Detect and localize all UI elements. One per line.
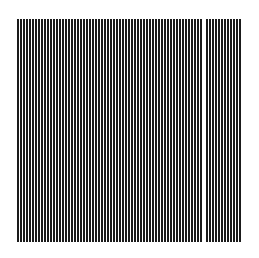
stripe	[113, 19, 115, 242]
stripe	[107, 19, 109, 242]
stripe	[20, 19, 22, 242]
stripe	[155, 19, 157, 242]
stripe	[68, 19, 70, 242]
stripe	[152, 19, 154, 242]
stripe	[35, 19, 37, 242]
stripe	[200, 19, 202, 242]
stripe	[239, 19, 241, 242]
stripe	[167, 19, 169, 242]
vertical-stripe-pattern	[17, 19, 241, 242]
stripe	[89, 19, 91, 242]
stripe	[197, 19, 199, 242]
stripe	[23, 19, 25, 242]
stripe	[50, 19, 52, 242]
stripe	[164, 19, 166, 242]
stripe	[86, 19, 88, 242]
stripe	[62, 19, 64, 242]
stripe	[161, 19, 163, 242]
stripe	[215, 19, 217, 242]
stripe	[122, 19, 124, 242]
stripe	[191, 19, 193, 242]
stripe	[182, 19, 184, 242]
stripe	[224, 19, 226, 242]
stripe	[47, 19, 49, 242]
stripe	[95, 19, 97, 242]
stripe	[179, 19, 181, 242]
stripe	[29, 19, 31, 242]
stripe	[209, 19, 211, 242]
stripe	[218, 19, 220, 242]
stripe	[17, 19, 19, 242]
stripe	[26, 19, 28, 242]
stripe	[83, 19, 85, 242]
stripe	[41, 19, 43, 242]
stripe	[227, 19, 229, 242]
stripe	[125, 19, 127, 242]
stripe	[128, 19, 130, 242]
stripe	[185, 19, 187, 242]
stripe	[59, 19, 61, 242]
stripe	[158, 19, 160, 242]
stripe	[188, 19, 190, 242]
stripe	[233, 19, 235, 242]
stripe	[134, 19, 136, 242]
stripe	[212, 19, 214, 242]
stripe	[32, 19, 34, 242]
stripe	[104, 19, 106, 242]
stripe	[221, 19, 223, 242]
stripe	[77, 19, 79, 242]
stripe	[194, 19, 196, 242]
stripe	[53, 19, 55, 242]
stripe	[170, 19, 172, 242]
stripe	[131, 19, 133, 242]
stripe	[101, 19, 103, 242]
stripe	[65, 19, 67, 242]
stripe	[146, 19, 148, 242]
stripe	[149, 19, 151, 242]
stripe	[71, 19, 73, 242]
stripe	[206, 19, 208, 242]
stripe	[44, 19, 46, 242]
stripe	[74, 19, 76, 242]
stripe	[143, 19, 145, 242]
stripe	[230, 19, 232, 242]
stripe	[98, 19, 100, 242]
stripe	[119, 19, 121, 242]
stripe	[137, 19, 139, 242]
stripe	[140, 19, 142, 242]
stripe	[38, 19, 40, 242]
stripe	[110, 19, 112, 242]
stripe	[176, 19, 178, 242]
stripe	[92, 19, 94, 242]
stripe	[116, 19, 118, 242]
stripe	[56, 19, 58, 242]
stripe	[173, 19, 175, 242]
stripe	[236, 19, 238, 242]
stripe	[80, 19, 82, 242]
